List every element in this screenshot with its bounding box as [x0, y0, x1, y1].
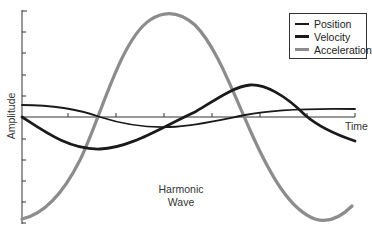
legend-swatch-position [295, 23, 309, 25]
legend-item-acceleration: Acceleration [295, 43, 372, 56]
legend-label-position: Position [314, 18, 351, 30]
x-axis-ticks [68, 113, 355, 117]
legend-swatch-velocity [295, 35, 309, 38]
chart-title: Harmonic Wave [150, 183, 212, 209]
legend-item-position: Position [295, 17, 351, 30]
chart-title-line-1: Harmonic [150, 183, 212, 196]
chart-legend: Position Velocity Acceleration [289, 13, 367, 59]
chart-title-line-2: Wave [150, 196, 212, 209]
x-axis-label: Time [345, 120, 368, 132]
y-axis-label: Amplitude [5, 91, 17, 141]
legend-label-velocity: Velocity [314, 31, 350, 43]
legend-item-velocity: Velocity [295, 30, 350, 43]
legend-label-acceleration: Acceleration [314, 44, 372, 56]
legend-swatch-acceleration [295, 48, 309, 51]
